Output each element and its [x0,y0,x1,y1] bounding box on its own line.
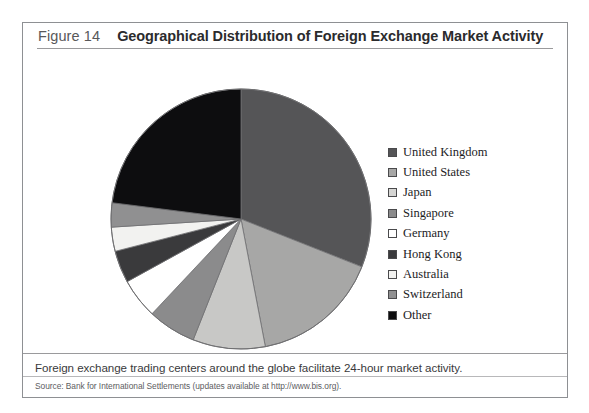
pie-chart-svg [110,88,372,350]
legend-swatch-icon [388,229,397,238]
figure-source: Source: Bank for International Settlemen… [35,381,555,391]
legend-item-label: Singapore [403,206,454,221]
legend-item: Switzerland [388,285,548,305]
legend-item-label: Switzerland [403,287,463,302]
legend-item: Australia [388,264,548,284]
caption-divider [23,353,567,354]
legend-item-label: United Kingdom [403,145,487,160]
figure-number: Figure 14 [38,28,100,44]
legend-item: Germany [388,224,548,244]
legend-item-label: Hong Kong [403,247,462,262]
figure-container: Figure 14 Geographical Distribution of F… [22,22,568,398]
legend-item-label: Germany [403,226,450,241]
legend-item-label: Australia [403,267,449,282]
legend-item: Other [388,305,548,325]
pie-slice-group [111,89,371,349]
legend-swatch-icon [388,188,397,197]
figure-title: Geographical Distribution of Foreign Exc… [117,28,543,44]
figure-caption: Foreign exchange trading centers around … [35,361,555,374]
source-divider [23,376,567,377]
figure-header: Figure 14 Geographical Distribution of F… [23,23,567,49]
legend-swatch-icon [388,209,397,218]
legend-swatch-icon [388,250,397,259]
legend-item: United States [388,162,548,182]
pie-chart [110,88,372,350]
legend-item-label: Japan [403,185,431,200]
pie-slice [112,89,241,219]
legend-item: Japan [388,183,548,203]
legend-swatch-icon [388,311,397,320]
legend-swatch-icon [388,270,397,279]
legend-swatch-icon [388,290,397,299]
legend-item: United Kingdom [388,142,548,162]
legend-item: Singapore [388,203,548,223]
legend-item: Hong Kong [388,244,548,264]
legend-swatch-icon [388,168,397,177]
chart-legend: United KingdomUnited StatesJapanSingapor… [388,142,548,326]
legend-item-label: Other [403,308,431,323]
legend-item-label: United States [403,165,470,180]
legend-swatch-icon [388,148,397,157]
chart-area: United KingdomUnited StatesJapanSingapor… [23,49,567,352]
